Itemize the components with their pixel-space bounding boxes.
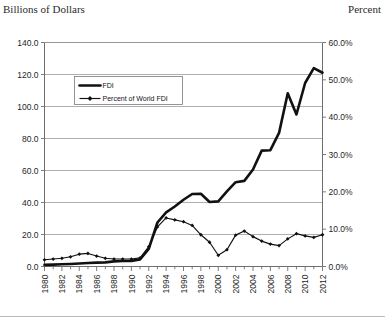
x-tick-label: 2010 [300,274,310,293]
x-tick-label: 2006 [266,274,276,293]
right-tick-label: 40.0% [329,112,354,122]
x-tick-label: 1990 [127,274,137,293]
data-point-marker [312,235,316,239]
right-tick-label: 0.0% [329,262,349,272]
x-tick-label: 2008 [283,274,293,293]
data-point-marker [321,233,325,237]
left-tick-label: 60.0 [22,166,39,176]
data-point-marker [86,252,90,256]
left-axis-tick-labels: 0.020.040.060.080.0100.0120.0140.0 [17,38,39,272]
legend-item-label: FDI [103,82,114,89]
x-tick-label: 2002 [231,274,241,293]
x-tick-label: 2004 [248,274,258,293]
data-point-marker [77,252,81,256]
legend-item-label: Percent of World FDI [103,95,168,102]
left-tick-label: 120.0 [17,70,39,80]
data-point-marker [95,254,99,258]
left-tick-label: 140.0 [17,38,39,48]
axis-lines [45,43,323,267]
chart-plot: 0.020.040.060.080.0100.0120.0140.0 0.0%1… [0,0,385,321]
x-tick-label: 1982 [57,274,67,293]
right-tick-label: 60.0% [329,38,354,48]
data-point-marker [268,242,272,246]
left-tick-label: 20.0 [22,230,39,240]
x-tick-label: 1992 [144,274,154,293]
data-point-marker [182,220,186,224]
data-point-marker [51,257,55,261]
data-point-marker [43,258,47,262]
x-tick-label: 1994 [161,274,171,293]
chart-container: Billions of Dollars Percent 0.020.040.06… [0,0,385,321]
chart-legend: FDIPercent of World FDI [75,77,183,105]
x-tick-label: 1998 [196,274,206,293]
data-point-marker [69,255,73,259]
x-axis-ticks [45,267,323,272]
left-tick-label: 0.0 [27,262,39,272]
x-tick-label: 1996 [179,274,189,293]
right-axis-ticks [323,43,327,267]
right-tick-label: 20.0% [329,187,354,197]
x-tick-label: 1986 [92,274,102,293]
gridlines-group [45,43,323,235]
data-point-marker [103,256,107,260]
left-tick-label: 80.0 [22,134,39,144]
left-tick-label: 100.0 [17,102,39,112]
data-point-marker [173,218,177,222]
right-tick-label: 30.0% [329,150,354,160]
right-tick-label: 50.0% [329,75,354,85]
left-axis-ticks [41,43,45,267]
x-tick-label: 1988 [109,274,119,293]
data-point-marker [60,256,64,260]
x-tick-label: 2000 [213,274,223,293]
x-tick-label: 2012 [318,274,328,293]
right-axis-tick-labels: 0.0%10.0%20.0%30.0%40.0%50.0%60.0% [329,38,354,272]
x-tick-label: 1984 [74,274,84,293]
right-tick-label: 10.0% [329,224,354,234]
left-tick-label: 40.0 [22,198,39,208]
x-tick-label: 1980 [40,274,50,293]
x-axis-tick-labels: 1980198219841986198819901992199419961998… [40,274,328,293]
